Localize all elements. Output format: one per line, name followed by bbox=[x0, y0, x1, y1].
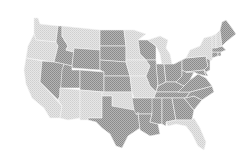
state-ia[interactable] bbox=[126, 60, 150, 76]
state-co[interactable] bbox=[80, 70, 104, 92]
state-me[interactable] bbox=[220, 20, 236, 46]
state-nm[interactable] bbox=[80, 90, 102, 120]
state-ms[interactable] bbox=[150, 98, 162, 124]
state-ne[interactable] bbox=[100, 60, 130, 76]
state-wa[interactable] bbox=[34, 18, 58, 42]
state-ar[interactable] bbox=[132, 98, 154, 114]
states-layer bbox=[24, 18, 236, 150]
state-ct[interactable] bbox=[212, 52, 218, 58]
state-ri[interactable] bbox=[218, 52, 221, 56]
state-nd[interactable] bbox=[100, 30, 126, 46]
state-ks[interactable] bbox=[104, 76, 132, 92]
state-wy[interactable] bbox=[72, 48, 100, 70]
state-fl[interactable] bbox=[166, 118, 206, 150]
us-choropleth-map bbox=[0, 0, 249, 163]
state-tn[interactable] bbox=[154, 92, 190, 98]
state-sd[interactable] bbox=[100, 46, 126, 62]
state-vt[interactable] bbox=[212, 34, 216, 48]
state-mt[interactable] bbox=[62, 26, 100, 52]
state-az[interactable] bbox=[58, 88, 80, 120]
